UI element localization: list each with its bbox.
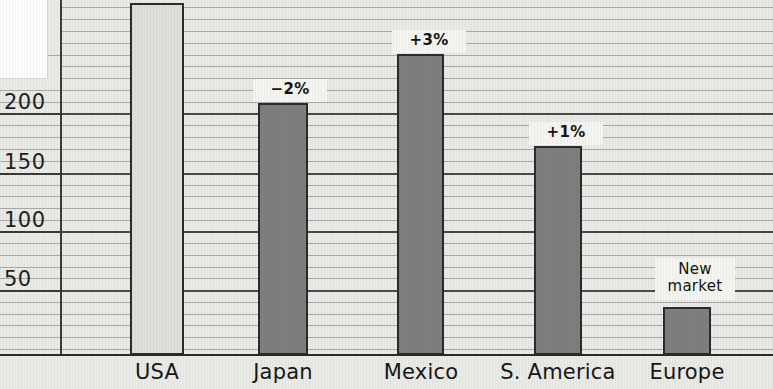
gridline-minor [0,208,773,209]
ytick-label-100: 100 [4,208,46,232]
gridline-minor [0,243,773,244]
gridline-minor [0,185,773,186]
gridline-minor [0,137,773,138]
category-label-usa: USA [112,360,202,384]
plot-area: 200 150 100 50 −2% +3% +1% New market [0,0,773,355]
gridline-minor [0,220,773,221]
bar-japan[interactable] [258,103,308,355]
gridline-minor [0,55,773,56]
gridline-minor [0,149,773,150]
gridline-major-150 [0,173,773,175]
category-label-japan: Japan [236,360,330,384]
gridline-minor [0,161,773,162]
gridline-minor [0,90,773,91]
category-label-s-america: S. America [490,360,626,384]
gridline-major-200 [0,113,773,115]
category-label-europe: Europe [634,360,740,384]
ytick-label-50: 50 [4,267,32,291]
bar-s-america[interactable] [534,146,582,355]
x-axis-baseline [0,354,773,356]
gridline-major-100 [0,231,773,233]
gridline-minor [0,314,773,315]
gridline-minor [0,255,773,256]
y-axis-line [60,0,62,355]
gridline-minor [0,325,773,326]
gridline-minor [0,125,773,126]
gridline-minor [0,337,773,338]
value-label-s-america: +1% [529,122,603,145]
bar-europe[interactable] [663,307,711,355]
gridline-minor [0,196,773,197]
value-label-mexico: +3% [392,30,466,53]
corner-occluder-block [0,0,48,79]
ytick-label-150: 150 [4,150,46,174]
bar-usa[interactable] [130,3,184,355]
value-label-japan: −2% [253,79,327,102]
category-label-mexico: Mexico [373,360,469,384]
bar-mexico[interactable] [397,54,444,355]
value-label-europe: New market [655,258,735,300]
gridline-minor [0,302,773,303]
gridline-minor [0,349,773,350]
gridline-minor [0,102,773,103]
bar-chart: 200 150 100 50 −2% +3% +1% New market US… [0,0,773,389]
ytick-label-200: 200 [4,90,46,114]
